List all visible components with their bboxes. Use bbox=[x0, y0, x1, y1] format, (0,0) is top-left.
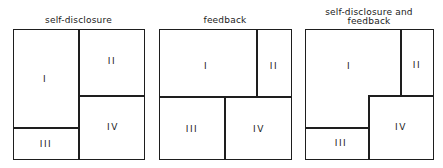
quadrant-label-unknown: IV bbox=[253, 124, 265, 134]
panel-title: feedback bbox=[159, 15, 291, 25]
quadrant-label-hidden: III bbox=[186, 124, 198, 134]
horizontal-divider-right bbox=[368, 95, 433, 97]
quadrant-label-unknown: IV bbox=[395, 122, 407, 132]
panel-title-line-2: feedback bbox=[305, 16, 433, 26]
vertical-divider-top bbox=[400, 29, 402, 96]
quadrant-label-hidden: III bbox=[40, 139, 52, 149]
quadrant-label-unknown: IV bbox=[107, 122, 119, 132]
vertical-divider-top bbox=[256, 29, 258, 97]
quadrant-label-open: I bbox=[347, 61, 351, 71]
quadrant-label-blind: II bbox=[270, 61, 278, 71]
quadrant-label-open: I bbox=[43, 74, 47, 84]
horizontal-divider-left bbox=[305, 127, 369, 129]
horizontal-divider-right bbox=[78, 95, 144, 97]
vertical-divider-bottom bbox=[224, 96, 226, 160]
horizontal-divider-left bbox=[13, 127, 79, 129]
quadrant-label-blind: II bbox=[413, 60, 421, 70]
quadrant-label-blind: II bbox=[108, 56, 116, 66]
panel-title: self-disclosure bbox=[13, 15, 144, 25]
quadrant-label-hidden: III bbox=[335, 138, 347, 148]
quadrant-label-open: I bbox=[204, 61, 208, 71]
